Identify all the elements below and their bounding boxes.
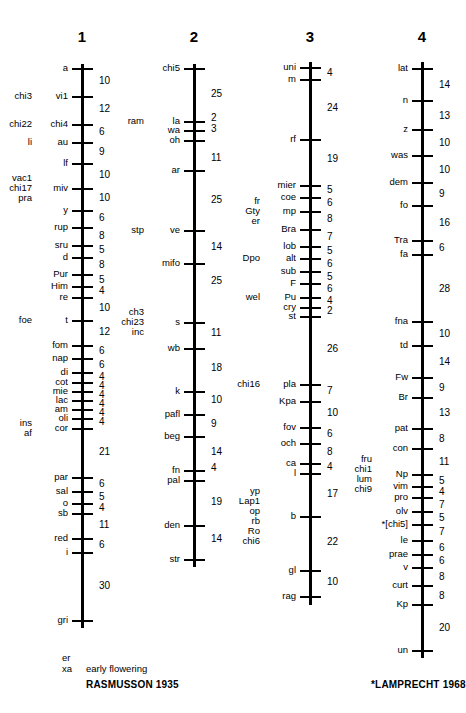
- locus-tick: [72, 538, 93, 540]
- locus-tick: [300, 271, 321, 273]
- map-distance-label: 6: [99, 479, 105, 489]
- locus-tick: [300, 197, 321, 199]
- locus-label: Np: [396, 469, 408, 479]
- locus-tick: [184, 414, 205, 416]
- map-distance-label: 5: [327, 246, 333, 256]
- locus-tick: [184, 263, 205, 265]
- locus-label: ar: [172, 165, 180, 175]
- locus-tick: [412, 155, 433, 157]
- locus-tick: [300, 596, 321, 598]
- locus-tick: [412, 397, 433, 399]
- map-distance-label: 6: [439, 243, 445, 253]
- map-distance-label: 10: [439, 165, 450, 175]
- locus-tick: [184, 322, 205, 324]
- locus-label: pla: [283, 379, 296, 389]
- associated-locus-label: er: [252, 216, 260, 226]
- locus-label: mp: [283, 206, 296, 216]
- locus-tick: [412, 497, 433, 499]
- associated-locus-label: foe: [19, 315, 32, 325]
- map-distance-label: 19: [327, 154, 338, 164]
- locus-label: sub: [281, 266, 296, 276]
- locus-tick: [412, 448, 433, 450]
- locus-tick: [184, 470, 205, 472]
- map-distance-label: 4: [327, 462, 333, 472]
- locus-label: mifo: [162, 258, 180, 268]
- locus-tick: [300, 211, 321, 213]
- locus-tick: [412, 129, 433, 131]
- locus-label: Pur: [53, 269, 68, 279]
- locus-tick: [72, 96, 93, 98]
- locus-label: *[chi5]: [382, 519, 408, 529]
- locus-label: prae: [389, 549, 408, 559]
- locus-tick: [300, 401, 321, 403]
- locus-label: mier: [278, 180, 296, 190]
- xa-label: xa: [62, 663, 72, 674]
- chromosome-title-2: 2: [164, 28, 224, 45]
- locus-label: lf: [63, 158, 68, 168]
- map-distance-label: 3: [211, 124, 217, 134]
- map-distance-label: 6: [327, 429, 333, 439]
- associated-locus-label: li: [28, 137, 32, 147]
- locus-tick: [72, 124, 93, 126]
- locus-label: gl: [289, 565, 296, 575]
- map-distance-label: 12: [99, 104, 110, 114]
- associated-locus-label: chi9: [355, 484, 372, 494]
- map-distance-label: 7: [327, 386, 333, 396]
- map-distance-label: 30: [99, 581, 110, 591]
- locus-tick: [412, 205, 433, 207]
- locus-tick: [72, 210, 93, 212]
- locus-tick: [184, 436, 205, 438]
- map-distance-label: 26: [327, 344, 338, 354]
- locus-tick: [300, 570, 321, 572]
- chromosome-axis-3: [309, 62, 312, 605]
- map-distance-label: 5: [439, 476, 445, 486]
- locus-label: Fw: [395, 372, 408, 382]
- map-distance-label: 11: [211, 328, 221, 338]
- locus-label: l: [294, 468, 296, 478]
- map-distance-label: 6: [327, 198, 333, 208]
- associated-locus-label: chi3: [15, 91, 32, 101]
- map-distance-label: 4: [99, 417, 105, 427]
- map-distance-label: 5: [327, 272, 333, 282]
- locus-label: d: [63, 252, 68, 262]
- map-distance-label: 6: [99, 540, 105, 550]
- locus-tick: [300, 463, 321, 465]
- locus-label: och: [281, 438, 296, 448]
- locus-tick: [72, 491, 93, 493]
- locus-label: fna: [395, 316, 408, 326]
- chromosome-title-4: 4: [392, 28, 452, 45]
- locus-label: td: [400, 340, 408, 350]
- locus-label: curt: [392, 580, 408, 590]
- map-distance-label: 4: [439, 487, 445, 497]
- locus-label: uni: [283, 62, 296, 72]
- locus-label: sru: [55, 240, 68, 250]
- map-distance-label: 14: [211, 534, 222, 544]
- locus-label: i: [66, 547, 68, 557]
- locus-tick: [72, 297, 93, 299]
- locus-tick: [300, 316, 321, 318]
- locus-label: gri: [57, 615, 68, 625]
- locus-tick: [72, 418, 93, 420]
- locus-label: un: [397, 645, 408, 655]
- locus-label: Kpa: [279, 396, 296, 406]
- map-distance-label: 9: [99, 147, 105, 157]
- associated-locus-label: chi6: [243, 536, 260, 546]
- locus-label: miv: [53, 183, 68, 193]
- map-distance-label: 7: [327, 232, 333, 242]
- map-distance-label: 7: [439, 527, 445, 537]
- locus-tick: [184, 559, 205, 561]
- map-distance-label: 25: [211, 89, 222, 99]
- locus-label: red: [54, 533, 68, 543]
- locus-tick: [412, 604, 433, 606]
- locus-tick: [72, 552, 93, 554]
- map-distance-label: 11: [439, 457, 449, 467]
- locus-label: par: [54, 472, 68, 482]
- associated-locus-label: pra: [18, 193, 32, 203]
- associated-locus-label: ram: [128, 116, 144, 126]
- map-distance-label: 11: [211, 153, 221, 163]
- map-distance-label: 12: [99, 327, 110, 337]
- map-distance-label: 6: [327, 259, 333, 269]
- map-distance-label: 4: [327, 68, 333, 78]
- map-distance-label: 10: [99, 76, 110, 86]
- associated-locus-label: Dpo: [243, 253, 260, 263]
